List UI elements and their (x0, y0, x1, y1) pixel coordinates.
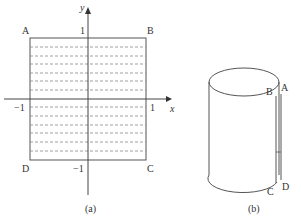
tick-x-right: 1 (150, 103, 155, 113)
cylinder-label-d: D (282, 182, 289, 192)
tick-y-top: 1 (80, 26, 85, 36)
corner-c-label: C (147, 164, 154, 174)
caption-a: (a) (85, 204, 96, 214)
corner-b-label: B (147, 26, 154, 36)
cylinder-label-a: A (281, 83, 288, 93)
y-axis-label: y (80, 3, 84, 13)
x-axis-arrow-icon (166, 96, 172, 102)
corner-a-label: A (22, 26, 29, 36)
tick-y-bottom: −1 (73, 164, 84, 174)
caption-b: (b) (248, 204, 260, 214)
tick-x-left: −1 (14, 103, 25, 113)
cylinder-label-c: C (267, 187, 274, 197)
cylinder-label-b: B (266, 87, 273, 97)
y-axis-arrow-icon (85, 7, 91, 14)
x-axis-label: x (170, 104, 174, 114)
corner-d-label: D (22, 164, 29, 174)
